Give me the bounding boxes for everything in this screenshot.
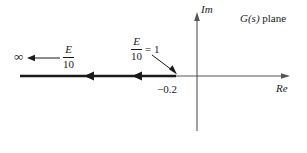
plane-caption-word: plane <box>260 12 287 24</box>
gain-denominator: 10 <box>63 59 74 71</box>
plane-caption: G(s) plane <box>240 13 286 24</box>
locus-direction-arrow-2 <box>132 72 142 81</box>
pole-location-label: −0.2 <box>157 84 177 95</box>
infinity-leader-arrow <box>27 55 60 61</box>
imaginary-axis-label: Im <box>201 4 213 15</box>
gain-at-infinity-label: E 10 <box>63 44 74 70</box>
infinity-symbol: ∞ <box>14 50 23 63</box>
real-axis-label: Re <box>276 83 288 94</box>
gain-fraction: E 10 <box>131 36 142 62</box>
plane-caption-symbol: G(s) <box>240 12 260 24</box>
gain-numerator: E <box>131 36 142 48</box>
gain-equals-value: = 1 <box>145 44 159 55</box>
gain-at-breakaway-label: E 10 = 1 <box>131 36 159 62</box>
gain-numerator: E <box>63 44 74 56</box>
root-locus-branch <box>20 72 176 81</box>
gain-denominator: 10 <box>131 51 142 63</box>
root-locus-figure: Im Re G(s) plane ∞ E 10 E 10 = 1 −0.2 <box>0 0 307 153</box>
imaginary-axis <box>194 12 200 131</box>
gain-fraction: E 10 <box>63 44 74 70</box>
locus-direction-arrow-1 <box>84 72 94 81</box>
